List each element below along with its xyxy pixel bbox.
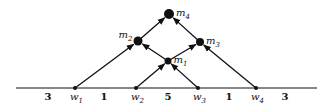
label-w3: w3 <box>193 91 207 105</box>
label-w2: w2 <box>131 91 145 105</box>
label-m4: m4 <box>176 7 190 21</box>
label-m1: m1 <box>174 54 188 68</box>
edge-w1-to-m2 <box>75 44 134 88</box>
label-w1: w1 <box>70 91 83 105</box>
segment-weight-0: 3 <box>45 91 52 102</box>
node-w2 <box>134 86 138 90</box>
edge-m3-to-m4 <box>173 18 200 42</box>
segment-weight-3: 1 <box>226 91 233 102</box>
node-w3 <box>196 86 200 90</box>
nodes-group <box>73 9 258 90</box>
node-m4 <box>164 9 174 19</box>
labels-group: w1w2w3w4m1m2m3m4 <box>70 7 264 105</box>
edges-group <box>75 18 256 88</box>
segment-weight-4: 3 <box>282 91 289 102</box>
edge-w4-to-m3 <box>204 45 256 88</box>
label-m2: m2 <box>119 29 133 43</box>
node-m3 <box>196 38 204 46</box>
edge-w2-to-m1 <box>136 64 165 88</box>
edge-m2-to-m4 <box>138 18 165 41</box>
label-w4: w4 <box>251 91 264 105</box>
node-w1 <box>73 86 77 90</box>
segment-weight-2: 5 <box>165 91 172 102</box>
node-w4 <box>254 86 258 90</box>
label-m3: m3 <box>206 35 220 49</box>
node-m2 <box>134 37 143 46</box>
diagram-canvas: w1w2w3w4m1m2m3m4 31513 <box>0 0 334 111</box>
segment-weight-1: 1 <box>101 91 108 102</box>
edge-m1-to-m2 <box>142 44 168 61</box>
node-m1 <box>165 58 172 65</box>
